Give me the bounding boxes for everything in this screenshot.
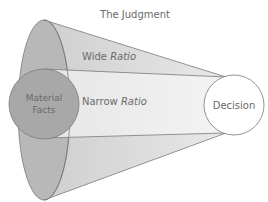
judgment-diagram: The Judgment Wide Ratio Narrow Ratio Mat…: [0, 0, 268, 202]
narrow-ratio-label: Narrow Ratio: [82, 96, 147, 107]
material-facts-label-line1: Material: [26, 93, 63, 103]
wide-ratio-label: Wide Ratio: [82, 51, 136, 62]
material-facts-label-line2: Facts: [32, 105, 55, 115]
diagram-title: The Judgment: [99, 9, 170, 20]
material-facts-circle: [9, 69, 79, 139]
decision-label: Decision: [213, 100, 256, 111]
